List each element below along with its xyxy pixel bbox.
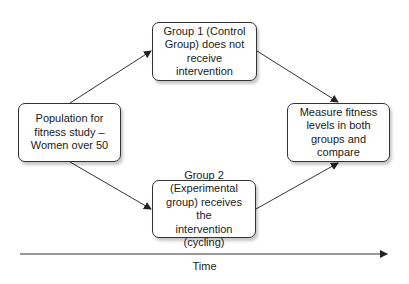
node-population: Population for fitness study – Women ove… — [18, 103, 121, 162]
node-measure-compare: Measure fitness levels in both groups an… — [287, 103, 390, 162]
arrow-group1-to-measure — [257, 51, 338, 102]
node-group2-experimental: Group 2 (Experimental group) receives th… — [152, 180, 256, 238]
arrow-population-to-group1 — [70, 51, 151, 103]
diagram-canvas: Population for fitness study – Women ove… — [0, 0, 409, 284]
arrow-group2-to-measure — [256, 163, 338, 209]
timeline-label: Time — [0, 260, 409, 272]
node-group1-control: Group 1 (Control Group) does not receive… — [152, 22, 257, 81]
arrow-population-to-group2 — [70, 162, 151, 209]
